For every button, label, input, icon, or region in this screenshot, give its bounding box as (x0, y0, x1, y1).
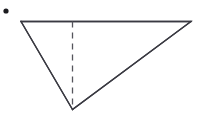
geometry-diagram (0, 0, 197, 125)
diagram-background (0, 0, 197, 125)
list-bullet-icon (3, 8, 8, 13)
figure-canvas (0, 0, 197, 125)
